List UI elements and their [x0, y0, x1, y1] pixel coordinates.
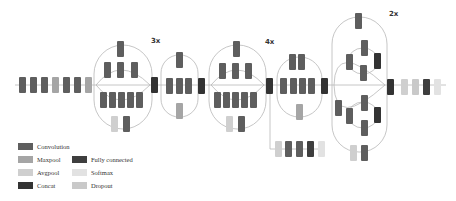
reduction-b-convolution-block [280, 78, 287, 94]
output-softmax-block [434, 79, 441, 95]
legend-label: Convolution [37, 143, 70, 150]
dropout-swatch [72, 182, 87, 189]
inception-c-convolution-block [360, 65, 367, 81]
reduction-a-convolution-block [176, 52, 183, 68]
stem-maxpool-block [85, 77, 92, 93]
output-dropout-block [412, 79, 419, 95]
inception-a-convolution-block [104, 62, 111, 78]
inception-c-concat-block [374, 53, 381, 69]
inception-b-avgpool-block [226, 116, 233, 132]
inception-c-convolution-block [355, 13, 362, 29]
inception-a-convolution-block [117, 41, 124, 57]
maxpool-swatch [18, 156, 33, 163]
legend-label: Avgpool [37, 169, 59, 176]
inception-c-concat-block [387, 79, 394, 95]
auxiliary-softmax-block [318, 141, 325, 157]
reduction-b-maxpool-block [296, 104, 303, 120]
stem-convolution-block [41, 77, 48, 93]
inception-a-convolution-block [131, 62, 138, 78]
inception-a-convolution-block [100, 92, 107, 108]
reduction-b-concat-block [321, 78, 328, 94]
inception-b-convolution-block [223, 92, 230, 108]
inception-b-convolution-block [214, 92, 221, 108]
stem-convolution-block [30, 77, 37, 93]
stem-convolution-block [19, 77, 26, 93]
legend-item-maxpool: Maxpool [18, 156, 60, 163]
inception-a-convolution-block [123, 116, 130, 132]
reduction-a-concat-block [198, 78, 205, 94]
inception-b-convolution-block [245, 63, 252, 79]
output-fully-connected-block [423, 79, 430, 95]
reduction-a-maxpool-block [176, 103, 183, 119]
legend-label: Concat [37, 182, 55, 189]
legend-item-concat: Concat [18, 182, 55, 189]
reduction-b-convolution-block [289, 54, 296, 70]
inception-a-convolution-block [118, 92, 125, 108]
reduction-b-convolution-block [299, 78, 306, 94]
reduction-a-convolution-block [166, 78, 173, 94]
inception-a-convolution-block [117, 62, 124, 78]
avgpool-swatch [18, 169, 33, 176]
reduction-b-convolution-block [290, 78, 297, 94]
auxiliary-fully-connected-block [307, 141, 314, 157]
inception-c-concat-block [374, 107, 381, 123]
inception-b-convolution-block [232, 63, 239, 79]
inception-c-avgpool-block [350, 145, 357, 161]
inception-b-concat-block [266, 78, 273, 94]
inception-b-convolution-block [250, 92, 257, 108]
output-avgpool-block [401, 79, 408, 95]
inception-a-convolution-block [109, 92, 116, 108]
inception-b-convolution-block [238, 116, 245, 132]
legend-item-fully-connected: Fully connected [72, 156, 133, 163]
inception-v3-diagram: 3x 4x 2x Convolution Maxpool Avgpool Con… [0, 0, 456, 201]
softmax-swatch [72, 169, 87, 176]
legend-item-softmax: Softmax [72, 169, 113, 176]
reduction-b-convolution-block [298, 54, 305, 70]
inception-b-convolution-block [232, 92, 239, 108]
auxiliary-convolution-block [285, 141, 292, 157]
inception-b-convolution-block [233, 41, 240, 57]
inception-b-repeat-label: 4x [265, 38, 274, 46]
inception-c-convolution-block [361, 120, 368, 136]
legend-label: Dropout [91, 182, 113, 189]
legend-item-convolution: Convolution [18, 143, 70, 150]
inception-b-convolution-block [241, 92, 248, 108]
legend-item-dropout: Dropout [72, 182, 113, 189]
stem-maxpool-block [52, 77, 59, 93]
inception-a-convolution-block [127, 92, 134, 108]
inception-a-concat-block [151, 77, 158, 93]
inception-c-convolution-block [361, 40, 368, 56]
concat-swatch [18, 182, 33, 189]
auxiliary-avgpool-block [275, 141, 282, 157]
inception-a-avgpool-block [111, 116, 118, 132]
inception-c-convolution-block [361, 145, 368, 161]
auxiliary-convolution-block [296, 141, 303, 157]
reduction-b-convolution-block [308, 78, 315, 94]
inception-a-convolution-block [136, 92, 143, 108]
legend-label: Softmax [91, 169, 113, 176]
stem-convolution-block [63, 77, 70, 93]
legend-label: Fully connected [91, 156, 133, 163]
reduction-a-convolution-block [176, 78, 183, 94]
fully-connected-swatch [72, 156, 87, 163]
inception-b-convolution-block [219, 63, 226, 79]
inception-c-convolution-block [346, 54, 353, 70]
legend-item-avgpool: Avgpool [18, 169, 59, 176]
reduction-a-convolution-block [185, 78, 192, 94]
inception-c-convolution-block [346, 108, 353, 124]
inception-c-repeat-label: 2x [389, 10, 398, 18]
inception-c-convolution-block [335, 100, 342, 116]
convolution-swatch [18, 143, 33, 150]
stem-convolution-block [74, 77, 81, 93]
legend-label: Maxpool [37, 156, 60, 163]
inception-c-convolution-block [361, 95, 368, 111]
inception-a-repeat-label: 3x [151, 37, 160, 45]
